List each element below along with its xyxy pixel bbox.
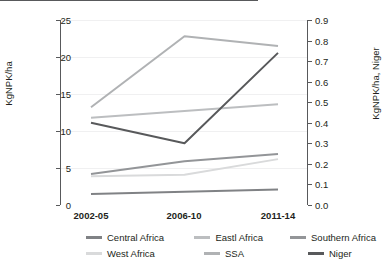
legend-swatch-icon: [86, 252, 102, 255]
chart-container: 25 20 15 10 5 0 0.9 0.8 0.7 0.6 0.5 0.4 …: [0, 0, 387, 268]
series-line-niger: [91, 53, 278, 143]
series-line-ssa: [91, 36, 278, 107]
legend-row: Central Africa Eastl Africa Southern Afr…: [86, 229, 376, 245]
chart-series-layer: [0, 0, 387, 268]
legend-label: West Africa: [107, 248, 155, 259]
legend-swatch-icon: [86, 236, 102, 239]
legend-label: Eastl Africa: [215, 232, 263, 243]
legend-item-southern-africa[interactable]: Southern Africa: [290, 232, 376, 243]
legend-swatch-icon: [308, 252, 324, 255]
legend-item-central-africa[interactable]: Central Africa: [86, 232, 194, 243]
series-line-eastl-africa: [91, 104, 278, 117]
legend-label: SSA: [225, 248, 244, 259]
chart-legend: Central Africa Eastl Africa Southern Afr…: [86, 229, 376, 261]
legend-swatch-icon: [290, 236, 306, 239]
legend-label: Niger: [329, 248, 352, 259]
legend-swatch-icon: [204, 252, 220, 255]
legend-item-west-africa[interactable]: West Africa: [86, 248, 204, 259]
legend-item-eastl-africa[interactable]: Eastl Africa: [194, 232, 290, 243]
legend-row: West Africa SSA Niger: [86, 245, 376, 261]
legend-item-niger[interactable]: Niger: [308, 248, 352, 259]
legend-swatch-icon: [194, 236, 210, 239]
legend-label: Central Africa: [107, 232, 164, 243]
series-line-central-africa: [91, 189, 278, 193]
legend-label: Southern Africa: [311, 232, 376, 243]
legend-item-ssa[interactable]: SSA: [204, 248, 308, 259]
